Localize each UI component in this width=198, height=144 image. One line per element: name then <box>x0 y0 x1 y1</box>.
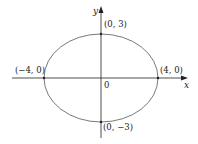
point-left-label: (−4, 0) <box>15 65 45 75</box>
point-right-label: (4, 0) <box>160 65 183 75</box>
y-axis-label: y <box>92 6 99 16</box>
ellipse-diagram: y x 0 (0, 3) (0, −3) (−4, 0) (4, 0) <box>0 0 198 144</box>
point-left-dot <box>43 77 45 79</box>
y-axis-arrow-icon <box>99 6 104 13</box>
point-right-dot <box>157 77 159 79</box>
point-top-label: (0, 3) <box>104 19 127 29</box>
point-bottom-label: (0, −3) <box>103 122 133 132</box>
point-top-dot <box>100 33 102 35</box>
point-bottom-dot <box>100 121 102 123</box>
origin-label: 0 <box>104 80 109 90</box>
x-axis-label: x <box>184 80 189 90</box>
